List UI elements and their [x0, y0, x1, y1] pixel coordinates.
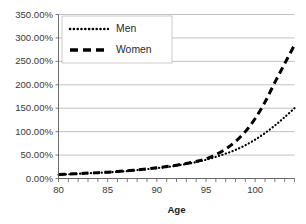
y-tick-label: 350.00%	[15, 9, 53, 20]
chart-container: 0.00%50.00%100.00%150.00%200.00%250.00%3…	[0, 0, 306, 224]
legend-label-men: Men	[116, 23, 136, 34]
y-tick-label: 100.00%	[15, 126, 53, 137]
x-tick-label: 90	[151, 184, 162, 195]
x-tick-label: 100	[247, 184, 263, 195]
x-tick-label: 80	[53, 184, 64, 195]
y-tick-label: 300.00%	[15, 32, 53, 43]
line-chart: 0.00%50.00%100.00%150.00%200.00%250.00%3…	[0, 0, 306, 224]
y-tick-label: 200.00%	[15, 79, 53, 90]
y-tick-label: 150.00%	[15, 102, 53, 113]
y-tick-label: 0.00%	[26, 173, 54, 184]
y-tick-label: 250.00%	[15, 55, 53, 66]
y-tick-label: 50.00%	[20, 149, 53, 160]
x-tick-label: 95	[201, 184, 212, 195]
chart-legend: Men Women	[62, 16, 172, 63]
x-axis-title: Age	[167, 204, 185, 215]
x-tick-label: 85	[102, 184, 113, 195]
legend-label-women: Women	[116, 44, 152, 55]
